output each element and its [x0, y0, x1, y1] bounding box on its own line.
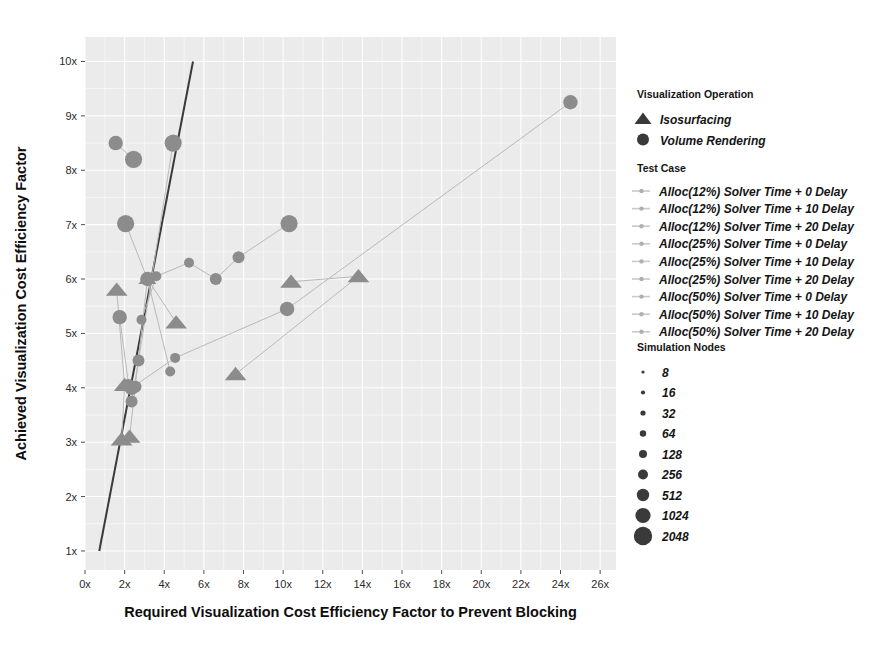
legend-dot-icon	[639, 277, 643, 281]
legend-testcase-item[interactable]: Alloc(12%) Solver Time + 0 Delay	[632, 185, 849, 199]
data-point-circle[interactable]	[280, 215, 297, 232]
x-tick-label: 8x	[238, 578, 250, 590]
legend-testcase-item[interactable]: Alloc(12%) Solver Time + 10 Delay	[632, 202, 855, 216]
legend-nodes-label: 32	[662, 407, 676, 421]
legend-testcase-label: Alloc(12%) Solver Time + 0 Delay	[658, 185, 849, 199]
y-axis-title: Achieved Visualization Cost Efficiency F…	[13, 146, 29, 460]
circle-icon	[640, 410, 645, 415]
legend-testcase-heading: Test Case	[637, 162, 686, 174]
x-tick-label: 20x	[472, 578, 490, 590]
x-tick-label: 0x	[79, 578, 91, 590]
y-tick-label: 3x	[65, 436, 77, 448]
circle-icon	[640, 430, 646, 436]
circle-icon	[637, 134, 649, 146]
x-tick-label: 24x	[552, 578, 570, 590]
legend-testcase-item[interactable]: Alloc(50%) Solver Time + 20 Delay	[632, 325, 855, 339]
y-tick-label: 10x	[59, 55, 77, 67]
data-point-circle[interactable]	[165, 134, 182, 151]
circle-icon	[634, 527, 652, 545]
scatter-plot-svg: 0x2x4x6x8x10x12x14x16x18x20x22x24x26x 1x…	[0, 0, 874, 659]
legend-testcase-label: Alloc(25%) Solver Time + 0 Delay	[658, 237, 849, 251]
legend-testcase-item[interactable]: Alloc(25%) Solver Time + 10 Delay	[632, 255, 855, 269]
legend-dot-icon	[639, 259, 643, 263]
legend-nodes-label: 512	[662, 489, 682, 503]
data-point-circle[interactable]	[136, 315, 146, 325]
x-tick-label: 6x	[198, 578, 210, 590]
x-tick-label: 22x	[512, 578, 530, 590]
legend-testcase-item[interactable]: Alloc(50%) Solver Time + 10 Delay	[632, 308, 855, 322]
data-point-circle[interactable]	[210, 273, 222, 285]
circle-icon	[637, 489, 649, 501]
legend-nodes-label: 256	[661, 468, 682, 482]
data-point-circle[interactable]	[132, 355, 144, 367]
data-point-circle[interactable]	[109, 136, 123, 150]
x-tick-label: 4x	[158, 578, 170, 590]
legend-nodes-label: 8	[662, 366, 669, 380]
data-point-circle[interactable]	[233, 251, 245, 263]
legend-testcase-item[interactable]: Alloc(25%) Solver Time + 0 Delay	[632, 237, 849, 251]
circle-icon	[639, 450, 647, 458]
legend-testcase-label: Alloc(12%) Solver Time + 10 Delay	[658, 202, 855, 216]
legend-dot-icon	[639, 330, 643, 334]
data-point-circle[interactable]	[125, 151, 142, 168]
y-tick-label: 7x	[65, 219, 77, 231]
legend-nodes-label: 2048	[661, 530, 689, 544]
x-tick-label: 2x	[119, 578, 131, 590]
y-tick-label: 8x	[65, 164, 77, 176]
legend-nodes-item[interactable]: 2048	[634, 527, 689, 545]
x-tick-label: 12x	[314, 578, 332, 590]
legend-operation-heading: Visualization Operation	[637, 88, 754, 100]
legend-operation-label: Isosurfacing	[660, 113, 732, 127]
data-point-circle[interactable]	[165, 366, 175, 376]
legend-testcase-label: Alloc(50%) Solver Time + 0 Delay	[658, 290, 849, 304]
y-tick-label: 9x	[65, 110, 77, 122]
data-point-circle[interactable]	[184, 258, 194, 268]
data-point-circle[interactable]	[112, 310, 126, 324]
circle-icon	[641, 370, 644, 373]
legend-test-case[interactable]: Test Case Alloc(12%) Solver Time + 0 Del…	[632, 162, 855, 339]
x-axis-title: Required Visualization Cost Efficiency F…	[124, 604, 577, 620]
legend-nodes-label: 1024	[662, 509, 689, 523]
legend-dot-icon	[639, 294, 643, 298]
legend-testcase-label: Alloc(50%) Solver Time + 20 Delay	[658, 325, 855, 339]
legend-nodes-item[interactable]: 1024	[635, 508, 689, 523]
circle-icon	[641, 390, 645, 394]
legend-testcase-item[interactable]: Alloc(25%) Solver Time + 20 Delay	[632, 273, 855, 287]
data-point-circle[interactable]	[563, 95, 577, 109]
circle-icon	[635, 508, 650, 523]
legend-testcase-item[interactable]: Alloc(50%) Solver Time + 0 Delay	[632, 290, 849, 304]
legend-dot-icon	[639, 242, 643, 246]
legend-testcase-label: Alloc(25%) Solver Time + 10 Delay	[658, 255, 855, 269]
legend-testcase-label: Alloc(25%) Solver Time + 20 Delay	[658, 273, 855, 287]
x-tick-label: 26x	[591, 578, 609, 590]
legend-testcase-label: Alloc(12%) Solver Time + 20 Delay	[658, 220, 855, 234]
y-tick-label: 4x	[65, 382, 77, 394]
legend-testcase-items[interactable]: Alloc(12%) Solver Time + 0 DelayAlloc(12…	[632, 185, 855, 340]
plot-panel	[85, 37, 616, 570]
x-tick-label: 18x	[433, 578, 451, 590]
legend-dot-icon	[639, 224, 643, 228]
y-tick-label: 5x	[65, 327, 77, 339]
legend-dot-icon	[639, 189, 643, 193]
x-tick-label: 10x	[274, 578, 292, 590]
data-point-circle[interactable]	[170, 353, 180, 363]
legend-dot-icon	[639, 206, 643, 210]
legend-nodes-label: 64	[662, 427, 676, 441]
circle-icon	[638, 470, 648, 480]
data-point-circle[interactable]	[280, 302, 294, 316]
legend-testcase-item[interactable]: Alloc(12%) Solver Time + 20 Delay	[632, 220, 855, 234]
data-point-circle[interactable]	[126, 395, 138, 407]
legend-nodes-label: 128	[662, 448, 682, 462]
x-tick-label: 16x	[393, 578, 411, 590]
y-tick-label: 1x	[65, 545, 77, 557]
chart-figure: 0x2x4x6x8x10x12x14x16x18x20x22x24x26x 1x…	[0, 0, 874, 659]
y-tick-label: 2x	[65, 491, 77, 503]
data-point-circle[interactable]	[117, 215, 134, 232]
legend-nodes-label: 16	[662, 386, 676, 400]
legend-testcase-label: Alloc(50%) Solver Time + 10 Delay	[658, 308, 855, 322]
y-tick-label: 6x	[65, 273, 77, 285]
x-tick-label: 14x	[354, 578, 372, 590]
legend-dot-icon	[639, 312, 643, 316]
legend-nodes-heading: Simulation Nodes	[637, 341, 726, 353]
legend-operation-label: Volume Rendering	[660, 134, 766, 148]
